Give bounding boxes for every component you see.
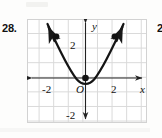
point-marker [82, 75, 89, 82]
figure-page: 28. 2 [0, 0, 162, 138]
y-axis-label: y [92, 21, 97, 32]
point-marker [112, 33, 118, 39]
x-axis-label: x [140, 84, 145, 95]
point-marker [53, 33, 59, 39]
next-exercise-number-clipped: 2 [157, 22, 162, 34]
y-tick-label-2: 2 [70, 40, 76, 51]
x-tick-label-2: 2 [111, 84, 117, 95]
x-tick-label-minus2: -2 [42, 84, 51, 95]
graph-plate [27, 19, 147, 123]
scan-artifact-top [26, 2, 48, 7]
exercise-number: 28. [2, 22, 17, 34]
scan-artifact-bottom [0, 128, 150, 132]
y-tick-label-minus2: -2 [66, 110, 75, 121]
origin-label: O [76, 84, 84, 95]
coordinate-graph-svg [27, 19, 147, 123]
